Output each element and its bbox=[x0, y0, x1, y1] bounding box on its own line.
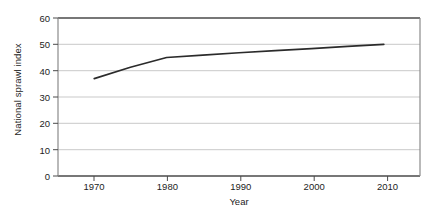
plot-canvas bbox=[0, 0, 439, 219]
y-tick-marks bbox=[53, 18, 58, 176]
x-tick-marks bbox=[94, 176, 388, 181]
chart-figure: National sprawl index 60 50 40 30 20 10 … bbox=[0, 0, 439, 219]
